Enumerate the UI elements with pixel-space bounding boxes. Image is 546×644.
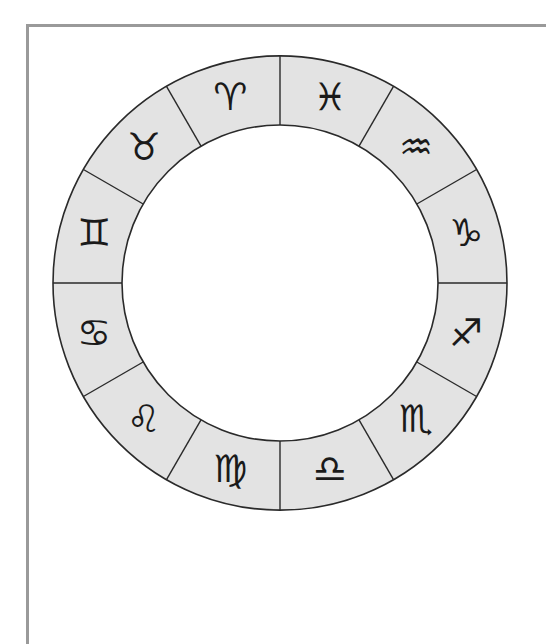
libra-icon: ♎︎ (313, 447, 347, 491)
sagittarius-icon: ♐︎ (449, 311, 483, 355)
aries-icon: ♈︎ (213, 75, 247, 119)
pisces-icon: ♓︎ (313, 75, 347, 119)
cancer-icon: ♋︎ (77, 311, 111, 355)
scorpio-icon: ♏︎ (399, 397, 433, 441)
taurus-icon: ♉︎ (127, 125, 161, 169)
gemini-icon: ♊︎ (77, 211, 111, 255)
virgo-icon: ♍︎ (213, 447, 247, 491)
leo-icon: ♌︎ (127, 397, 161, 441)
capricorn-icon: ♑︎ (449, 211, 483, 255)
aquarius-icon: ♒︎ (399, 125, 433, 169)
zodiac-glyphs: ♈︎♉︎♊︎♋︎♌︎♍︎♎︎♏︎♐︎♑︎♒︎♓︎ (77, 75, 483, 491)
